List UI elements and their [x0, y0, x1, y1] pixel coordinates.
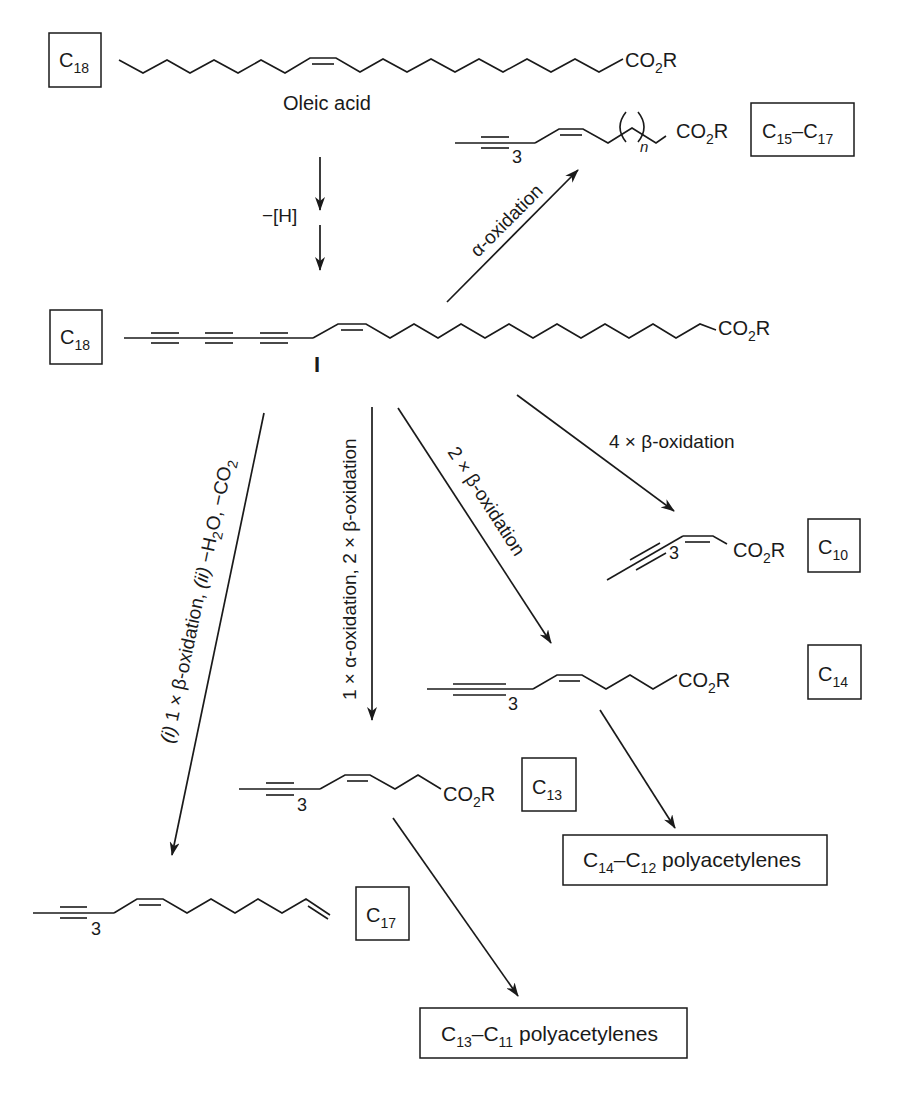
condition-2x-beta-oxidation: 2 × β-oxidation — [444, 443, 530, 560]
alkenyl-chain-terminal-alkene — [114, 899, 330, 915]
alkenyl-chain — [533, 675, 677, 689]
beta-oxidation-2x-arrow — [398, 408, 551, 643]
repeat-count: 3 — [508, 694, 518, 714]
repeat-count: 3 — [669, 543, 679, 563]
repeat-bracket-left — [620, 112, 626, 142]
alkyl-chain — [313, 324, 716, 338]
c14-structure: 3 CO2R C14 — [427, 645, 861, 714]
ester-group: CO2R — [718, 317, 770, 344]
carbon-count-box-c17 — [356, 887, 409, 940]
c14-c12-polyacetylenes-product: C14–C12 polyacetylenes — [563, 835, 827, 885]
beta-oxidation-4x-arrow — [517, 395, 674, 511]
biosynthesis-scheme: C18 CO2R Oleic acid −[H] C18 CO2R I α-ox… — [0, 0, 900, 1097]
c17-structure: 3 C17 — [33, 887, 409, 940]
carbon-count-box-c13 — [522, 758, 576, 811]
carbon-count-box-c14 — [808, 645, 861, 699]
c10-structure: 3 CO2R C10 — [607, 519, 860, 580]
condition-4x-beta-oxidation: 4 × β-oxidation — [609, 431, 735, 452]
repeat-count: 3 — [512, 147, 522, 167]
ester-group: CO2R — [443, 783, 495, 810]
oleic-acid-structure: C18 CO2R Oleic acid — [49, 33, 677, 114]
condition-dehydrogenation: −[H] — [262, 205, 297, 226]
condition-alpha-oxidation: α-oxidation — [466, 180, 547, 261]
oleic-acid-chain — [119, 58, 623, 73]
condition-beta-oxidation-decarboxylation: (i) 1 × β-oxidation, (ii) −H2O, −CO2 — [156, 457, 241, 746]
compound-label-I: I — [314, 352, 320, 377]
c13-c11-polyacetylenes-product: C13–C11 polyacetylenes — [420, 1008, 687, 1058]
ester-group: CO2R — [678, 669, 730, 696]
repeat-count: 3 — [297, 795, 307, 815]
intermediate-I-structure: C18 CO2R I — [50, 310, 770, 377]
c15-c17-structure: 3 n CO2R C15–C17 — [455, 103, 854, 167]
carbon-count-box-c10 — [808, 519, 860, 572]
arrow-to-c13-c11-polyacetylenes — [393, 818, 518, 996]
c13-structure: 3 CO2R C13 — [239, 758, 576, 815]
alkenyl-chain — [320, 775, 441, 789]
repeat-n: n — [640, 138, 648, 155]
condition-alpha-2x-beta-oxidation: 1 × α-oxidation, 2 × β-oxidation — [339, 438, 360, 700]
arrow-to-c14-c12-polyacetylenes — [600, 710, 675, 828]
ester-group: CO2R — [733, 539, 785, 566]
ester-group: CO2R — [676, 120, 728, 147]
compound-name-oleic-acid: Oleic acid — [283, 92, 371, 114]
ester-group: CO2R — [625, 49, 677, 76]
repeat-count: 3 — [91, 919, 101, 939]
alpha-oxidation-arrow — [447, 170, 578, 302]
